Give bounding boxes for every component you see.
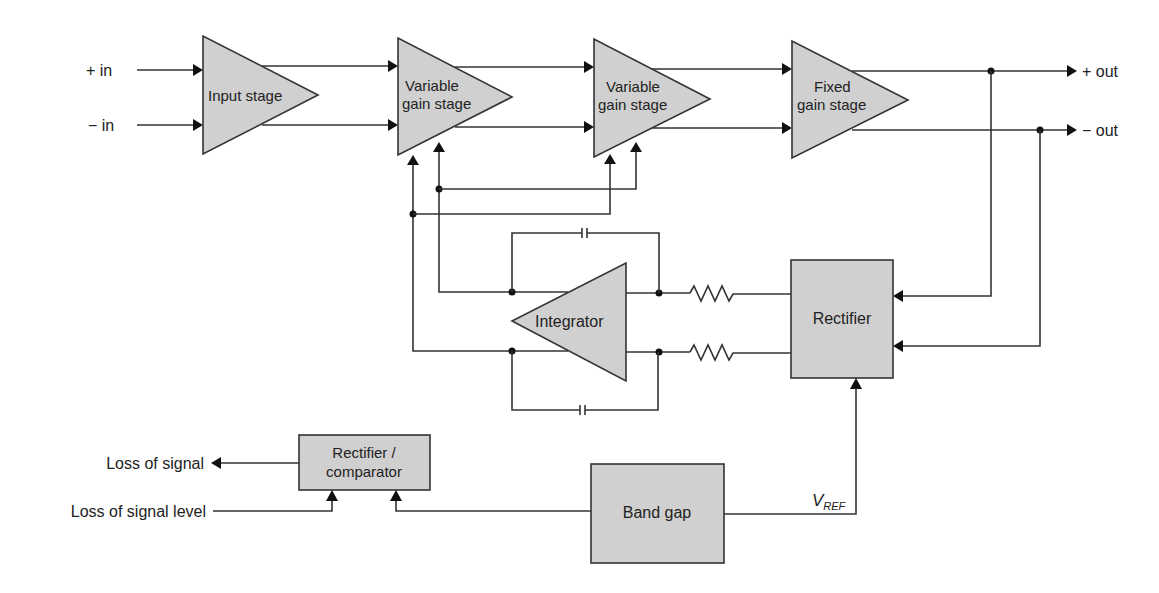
arrow-icon — [893, 290, 903, 302]
arrow-icon — [390, 490, 402, 501]
gain-control-wire-outer-vga2 — [413, 162, 610, 214]
loss-of-signal-label: Loss of signal — [106, 455, 204, 472]
vref-label: VREF — [812, 491, 847, 512]
arrow-icon — [604, 154, 616, 164]
plus-out-label: + out — [1082, 63, 1119, 80]
vga2-label-line1: Variable — [606, 78, 660, 95]
rect-comp-label-line2: comparator — [326, 463, 402, 480]
input-stage-label: Input stage — [208, 87, 282, 104]
gain-control-wire-inner — [439, 150, 512, 292]
variable-gain-stage-2-block: Variable gain stage — [594, 39, 710, 157]
loss-of-signal-level-label: Loss of signal level — [71, 503, 206, 520]
arrow-icon — [584, 61, 594, 73]
wire — [512, 233, 582, 292]
arrow-icon — [893, 340, 903, 352]
vga1-label-line1: Variable — [405, 77, 459, 94]
band-gap-block: Band gap — [591, 464, 724, 563]
arrow-icon — [782, 122, 792, 134]
wire — [512, 351, 580, 410]
plus-in-arrow-icon — [193, 64, 203, 76]
rectifier-label: Rectifier — [813, 310, 872, 327]
vga1-label-line2: gain stage — [402, 95, 471, 112]
arrow-icon — [584, 121, 594, 133]
minus-out-arrow-icon — [1067, 124, 1077, 136]
loss-of-signal-arrow-icon — [211, 457, 221, 469]
gain-control-wire-inner-vga2 — [439, 150, 636, 189]
plus-out-arrow-icon — [1067, 65, 1077, 77]
arrow-icon — [388, 119, 398, 131]
fixed-label-line2: gain stage — [797, 96, 866, 113]
vref-wire — [724, 388, 856, 514]
input-stage-block: Input stage — [203, 36, 318, 154]
arrow-icon — [326, 490, 338, 501]
arrow-icon — [782, 63, 792, 75]
junction-dot — [656, 349, 663, 356]
fixed-label-line1: Fixed — [814, 78, 851, 95]
loss-of-signal-level-wire — [213, 500, 332, 511]
arrow-icon — [630, 142, 642, 152]
minus-out-label: − out — [1082, 122, 1119, 139]
gain-control-wire-outer — [413, 163, 512, 351]
plus-in-label: + in — [86, 62, 112, 79]
integrator-label: Integrator — [535, 313, 604, 330]
arrow-icon — [407, 155, 419, 165]
rectifier-comparator-block: Rectifier / comparator — [299, 435, 430, 490]
band-gap-to-comparator-wire — [396, 500, 591, 511]
block-diagram: + in − in Input stage Variable gain stag… — [0, 0, 1159, 593]
minus-out-feedback-wire — [902, 130, 1040, 346]
resistor-icon — [690, 286, 791, 301]
arrow-icon — [850, 378, 862, 389]
band-gap-label: Band gap — [623, 504, 692, 521]
rectifier-block: Rectifier — [791, 260, 893, 378]
rect-comp-label-line1: Rectifier / — [332, 444, 396, 461]
resistor-icon — [690, 345, 791, 360]
vga2-label-line2: gain stage — [598, 96, 667, 113]
arrow-icon — [433, 142, 445, 152]
integrator-block: Integrator — [512, 263, 626, 381]
minus-in-arrow-icon — [193, 119, 203, 131]
plus-out-feedback-wire — [902, 71, 991, 296]
arrow-icon — [388, 60, 398, 72]
minus-in-label: − in — [88, 117, 114, 134]
variable-gain-stage-1-block: Variable gain stage — [398, 38, 512, 155]
fixed-gain-stage-block: Fixed gain stage — [792, 41, 908, 158]
